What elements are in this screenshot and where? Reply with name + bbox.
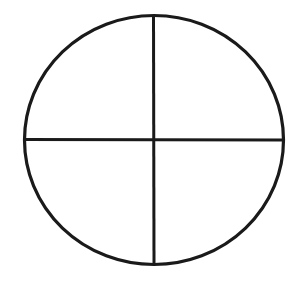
quadrant-circle-diagram bbox=[0, 0, 293, 286]
horizontal-divider-line bbox=[25, 140, 284, 141]
diagram-svg bbox=[0, 0, 293, 286]
